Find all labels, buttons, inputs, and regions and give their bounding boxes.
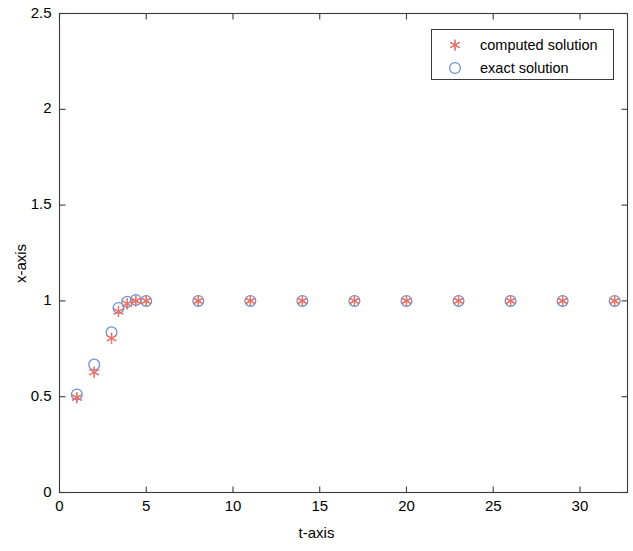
y-tick-label: 0 <box>6 483 52 500</box>
axes-frame <box>60 14 628 493</box>
data-point-computed <box>558 296 567 306</box>
data-point-computed <box>107 333 116 343</box>
data-point-computed <box>402 296 411 306</box>
figure-canvas: t-axis x-axis 051015202530 00.511.522.5 … <box>0 0 633 551</box>
circle-marker-icon <box>442 59 468 77</box>
data-point-computed <box>610 296 619 306</box>
asterisk-marker-icon <box>442 36 468 54</box>
y-tick-label: 2 <box>6 99 52 116</box>
x-tick-label: 5 <box>126 497 166 514</box>
data-point-computed <box>350 296 359 306</box>
x-tick-label: 10 <box>213 497 253 514</box>
y-tick-label: 1 <box>6 291 52 308</box>
series-computed-solution <box>73 296 619 403</box>
legend-item: exact solution <box>442 59 569 77</box>
plot-area <box>0 0 633 551</box>
data-point-computed <box>142 296 151 306</box>
legend-label: computed solution <box>480 37 598 53</box>
data-point-computed <box>73 393 82 403</box>
axis-ticks <box>60 14 628 493</box>
series-exact-solution <box>71 295 620 400</box>
y-tick-label: 0.5 <box>6 387 52 404</box>
data-point-computed <box>298 296 307 306</box>
legend-item: computed solution <box>442 36 598 54</box>
data-point-computed <box>114 306 123 316</box>
data-point-computed <box>246 296 255 306</box>
legend: computed solutionexact solution <box>431 29 614 80</box>
x-axis-title: t-axis <box>0 524 633 541</box>
x-tick-label: 20 <box>386 497 426 514</box>
data-point-computed <box>194 296 203 306</box>
x-tick-label: 30 <box>560 497 600 514</box>
y-tick-label: 2.5 <box>6 4 52 21</box>
data-point-computed <box>506 296 515 306</box>
x-tick-label: 25 <box>473 497 513 514</box>
legend-label: exact solution <box>480 60 569 76</box>
data-point-computed <box>454 296 463 306</box>
x-tick-label: 15 <box>300 497 340 514</box>
y-tick-label: 1.5 <box>6 195 52 212</box>
